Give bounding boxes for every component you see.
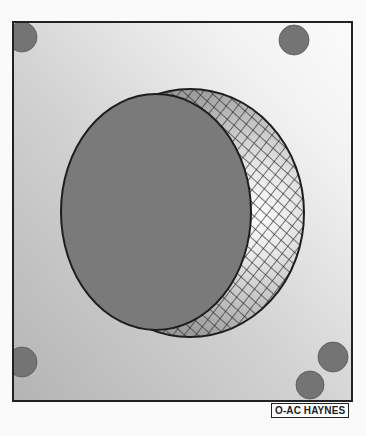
diagram-figure <box>0 0 366 436</box>
dot-top-right <box>279 25 309 55</box>
dark-disc <box>61 94 251 330</box>
dot-bottom-right-lower <box>296 371 324 399</box>
credit-label: O-AC HAYNES <box>271 403 349 418</box>
dot-top-left <box>7 22 37 52</box>
dot-bottom-right-upper <box>318 342 348 372</box>
dot-bottom-left <box>7 347 37 377</box>
